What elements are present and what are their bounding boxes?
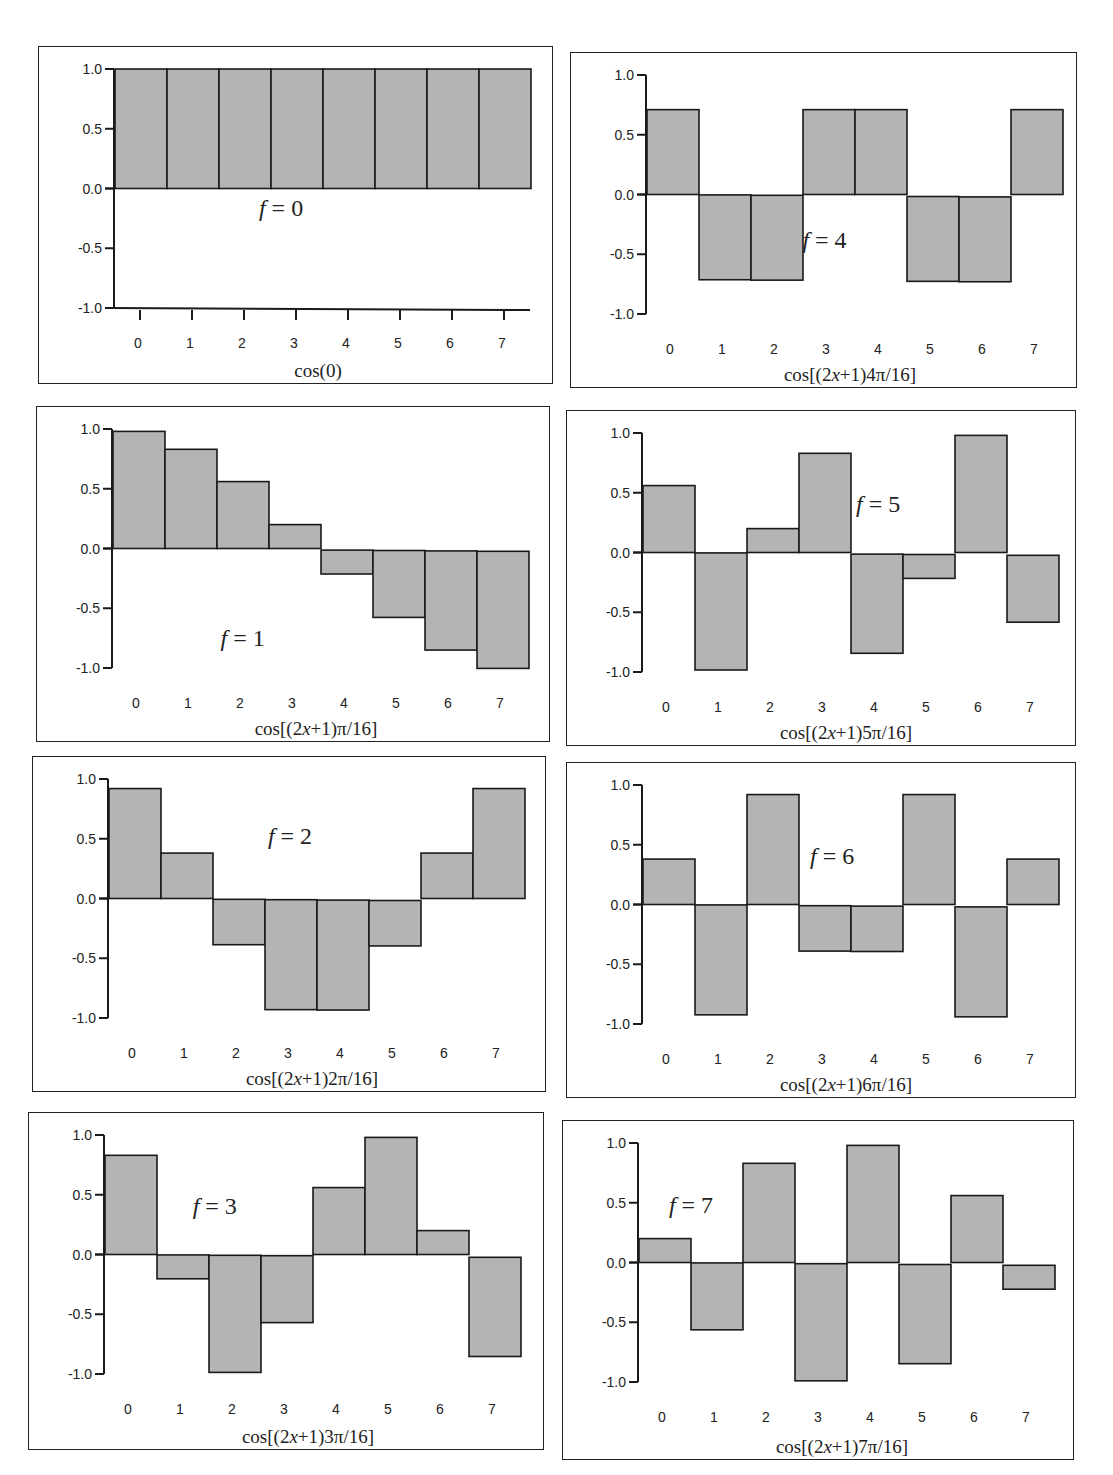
x-tick-label: 2 <box>770 341 778 357</box>
y-tick-label: 1.0 <box>77 771 97 787</box>
x-tick-label: 7 <box>1026 1051 1034 1067</box>
bar-x3 <box>799 453 851 552</box>
x-tick-label: 0 <box>134 335 142 351</box>
y-tick-label: -0.5 <box>72 950 96 966</box>
x-tick-label: 2 <box>228 1401 236 1417</box>
x-tick-label: 5 <box>388 1045 396 1061</box>
bar-x0 <box>105 1155 157 1254</box>
bar-chart-f5: 1.00.50.0-0.5-1.001234567cos[(2x+1)5π/16… <box>567 411 1077 747</box>
x-tick-label: 1 <box>714 1051 722 1067</box>
x-tick-label: 0 <box>128 1045 136 1061</box>
x-axis-caption: cos[(2x+1)6π/16] <box>780 1074 912 1096</box>
x-tick-label: 1 <box>180 1045 188 1061</box>
x-axis-caption: cos(0) <box>294 360 341 382</box>
chart-panel-f2: 1.00.50.0-0.5-1.001234567cos[(2x+1)2π/16… <box>32 756 546 1092</box>
y-tick-label: 0.5 <box>83 121 103 137</box>
bar-x4 <box>851 906 903 951</box>
chart-panel-f1: 1.00.50.0-0.5-1.001234567cos[(2x+1)π/16]… <box>36 406 550 742</box>
x-tick-label: 3 <box>814 1409 822 1425</box>
x-axis-caption: cos[(2x+1)π/16] <box>255 718 378 740</box>
x-axis-caption: cos[(2x+1)2π/16] <box>246 1068 378 1090</box>
frequency-label: f = 1 <box>220 625 264 651</box>
bar-x5 <box>903 795 955 905</box>
bar-chart-f2: 1.00.50.0-0.5-1.001234567cos[(2x+1)2π/16… <box>33 757 547 1093</box>
x-tick-label: 3 <box>290 335 298 351</box>
bar-x6 <box>955 907 1007 1017</box>
y-tick-label: 0.0 <box>615 187 635 203</box>
x-tick-label: 0 <box>132 695 140 711</box>
y-tick-label: 0.5 <box>73 1187 93 1203</box>
bar-x4 <box>847 1145 899 1262</box>
x-tick-label: 6 <box>974 1051 982 1067</box>
y-tick-label: -0.5 <box>76 600 100 616</box>
bar-x1 <box>165 449 217 548</box>
x-tick-label: 4 <box>340 695 348 711</box>
chart-panel-f5: 1.00.50.0-0.5-1.001234567cos[(2x+1)5π/16… <box>566 410 1076 746</box>
x-tick-label: 4 <box>874 341 882 357</box>
y-tick-label: -0.5 <box>606 604 630 620</box>
bar-x6 <box>425 551 477 650</box>
y-tick-label: -1.0 <box>602 1374 626 1390</box>
x-tick-label: 3 <box>822 341 830 357</box>
bar-x1 <box>161 853 213 898</box>
x-tick-label: 2 <box>762 1409 770 1425</box>
x-tick-label: 6 <box>978 341 986 357</box>
y-tick-label: -0.5 <box>602 1314 626 1330</box>
bar-x2 <box>747 529 799 553</box>
y-tick-label: 0.0 <box>611 545 631 561</box>
frequency-label: f = 7 <box>669 1192 713 1218</box>
x-tick-label: 2 <box>236 695 244 711</box>
chart-panel-f3: 1.00.50.0-0.5-1.001234567cos[(2x+1)3π/16… <box>28 1112 544 1450</box>
bar-x7 <box>1007 859 1059 904</box>
x-tick-label: 4 <box>336 1045 344 1061</box>
x-tick-label: 7 <box>488 1401 496 1417</box>
y-tick-label: 0.0 <box>77 891 97 907</box>
frequency-label: f = 5 <box>856 491 900 517</box>
bar-x0 <box>643 486 695 553</box>
x-tick-label: 7 <box>1030 341 1038 357</box>
bar-x5 <box>899 1265 951 1364</box>
bar-x3 <box>803 110 855 195</box>
x-tick-label: 3 <box>288 695 296 711</box>
bar-chart-f0: 1.00.50.0-0.5-1.001234567cos(0)f = 0 <box>39 47 554 385</box>
bar-x3 <box>265 900 317 1010</box>
y-tick-label: 1.0 <box>615 67 635 83</box>
frequency-label: f = 3 <box>193 1193 237 1219</box>
y-tick-label: 0.5 <box>615 127 635 143</box>
bar-x3 <box>799 906 851 951</box>
x-axis-caption: cos[(2x+1)5π/16] <box>780 722 912 744</box>
chart-panel-f6: 1.00.50.0-0.5-1.001234567cos[(2x+1)6π/16… <box>566 762 1076 1098</box>
x-tick-label: 4 <box>332 1401 340 1417</box>
y-tick-label: -1.0 <box>606 664 630 680</box>
y-tick-label: -1.0 <box>610 306 634 322</box>
bar-x0 <box>639 1239 691 1263</box>
x-tick-label: 1 <box>718 341 726 357</box>
y-tick-label: -0.5 <box>68 1306 92 1322</box>
x-tick-label: 4 <box>342 335 350 351</box>
x-tick-label: 0 <box>124 1401 132 1417</box>
x-tick-label: 0 <box>662 1051 670 1067</box>
bar-x2 <box>747 795 799 905</box>
x-tick-label: 2 <box>232 1045 240 1061</box>
x-tick-label: 7 <box>496 695 504 711</box>
x-tick-label: 0 <box>666 341 674 357</box>
x-tick-label: 5 <box>918 1409 926 1425</box>
bar-x7 <box>473 789 525 899</box>
y-tick-label: 0.0 <box>73 1247 93 1263</box>
bar-x4 <box>313 1188 365 1255</box>
y-tick-label: -1.0 <box>76 660 100 676</box>
bar-x3 <box>271 69 323 189</box>
bar-x2 <box>751 195 803 280</box>
frequency-label: f = 4 <box>802 227 846 253</box>
y-tick-label: -0.5 <box>78 240 102 256</box>
bar-x6 <box>955 435 1007 552</box>
bar-x3 <box>269 525 321 549</box>
x-tick-label: 3 <box>280 1401 288 1417</box>
bar-x2 <box>219 69 271 189</box>
x-tick-label: 7 <box>498 335 506 351</box>
y-tick-label: 1.0 <box>611 777 631 793</box>
y-tick-label: 1.0 <box>81 421 101 437</box>
x-tick-label: 7 <box>492 1045 500 1061</box>
x-tick-label: 1 <box>184 695 192 711</box>
y-tick-label: 0.5 <box>77 831 97 847</box>
